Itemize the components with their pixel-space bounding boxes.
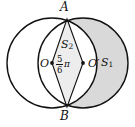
center-label-o-prime: O′ xyxy=(88,58,100,69)
region-label-s2-letter: S xyxy=(61,38,69,51)
geometry-figure: A B O O′ S1 S2 5 6 π xyxy=(0,0,135,127)
point-label-a: A xyxy=(60,1,69,13)
center-label-o: O xyxy=(40,58,49,69)
region-label-s2-subscript: 2 xyxy=(69,42,74,51)
angle-annotation: 5 6 π xyxy=(56,55,70,74)
region-label-s1-subscript: 1 xyxy=(109,60,114,69)
angle-numerator: 5 xyxy=(56,55,63,64)
center-dot-o-prime xyxy=(81,61,85,65)
region-label-s1-letter: S xyxy=(101,56,109,69)
center-dot-o xyxy=(50,61,54,65)
point-label-b: B xyxy=(60,110,69,122)
region-label-s1: S1 xyxy=(101,57,113,69)
region-label-s2: S2 xyxy=(61,39,73,51)
angle-denominator: 6 xyxy=(56,66,63,75)
pi-symbol: π xyxy=(64,60,70,69)
angle-fraction: 5 6 xyxy=(56,55,63,74)
